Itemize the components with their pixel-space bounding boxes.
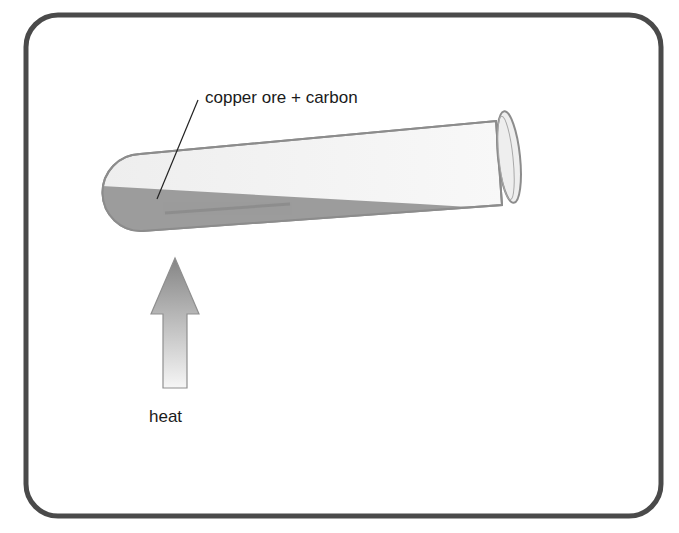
heat-label: heat bbox=[149, 407, 182, 426]
diagram-canvas: copper ore + carbon heat bbox=[0, 0, 679, 533]
contents-label: copper ore + carbon bbox=[205, 88, 358, 107]
